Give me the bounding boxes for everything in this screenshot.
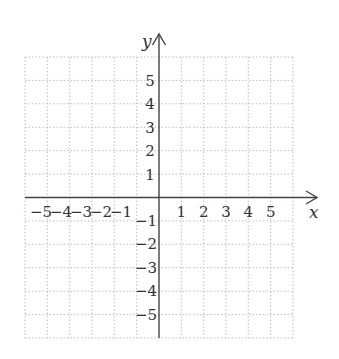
x-tick-label: −1 xyxy=(110,203,132,221)
y-tick-label: −2 xyxy=(135,235,157,253)
y-tick-label: 5 xyxy=(145,72,155,90)
y-tick-label: 3 xyxy=(145,119,155,137)
x-tick-label: 5 xyxy=(266,203,276,221)
x-tick-label: 3 xyxy=(221,203,231,221)
x-tick-label: −5 xyxy=(30,203,52,221)
x-tick-label: 1 xyxy=(177,203,187,221)
y-axis-label: y xyxy=(141,31,152,51)
axes xyxy=(25,34,317,338)
x-tick-label: 4 xyxy=(244,203,254,221)
y-tick-label: −1 xyxy=(135,212,157,230)
y-tick-label: −4 xyxy=(135,282,157,300)
x-tick-labels-positive: 1 2 3 4 5 xyxy=(177,203,276,221)
x-tick-labels-negative: −5 −4 −3 −2 −1 xyxy=(30,203,132,221)
y-tick-labels-positive: 5 4 3 2 1 xyxy=(145,72,155,184)
y-tick-label: −3 xyxy=(135,259,157,277)
x-tick-label: 2 xyxy=(199,203,209,221)
coordinate-plane: y x 1 2 3 4 5 −5 −4 −3 −2 −1 5 4 3 2 1 −… xyxy=(0,0,339,359)
x-tick-label: −3 xyxy=(70,203,92,221)
x-tick-label: −4 xyxy=(50,203,72,221)
x-tick-label: −2 xyxy=(90,203,112,221)
y-tick-label: −5 xyxy=(135,306,157,324)
y-tick-label: 2 xyxy=(145,142,155,160)
y-tick-label: 1 xyxy=(145,166,155,184)
y-tick-label: 4 xyxy=(145,95,155,113)
y-tick-labels-negative: −1 −2 −3 −4 −5 xyxy=(135,212,157,324)
x-axis-label: x xyxy=(309,202,319,222)
